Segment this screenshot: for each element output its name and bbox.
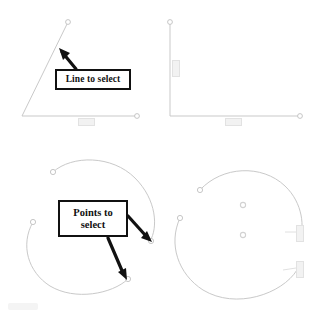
radius-leader-lower [283,268,296,270]
dimension-badge-top-right-vertical [172,60,180,77]
lower-arc-right [175,218,297,299]
figure-canvas: Line to select Points to select [0,0,323,320]
geometry-layer [0,0,323,320]
arc-endpoint-upper-left [50,169,55,174]
upper-arc-right [200,171,302,241]
dimension-badge-radius-lower [296,261,304,278]
callout-points-to-select-label: Points to select [73,207,112,231]
panel-top-right-geometry [168,20,303,119]
arrow-shaft-points-lower [108,238,123,273]
arrow-shaft-points-upper [128,216,146,236]
dimension-badge-top-left-horizontal [78,118,95,126]
center-point-marker-upper [240,202,245,207]
endpoint-marker-top [66,20,71,25]
callout-points-line-1: Points to [73,207,112,218]
scan-artifact [8,303,38,310]
endpoint-marker-right [135,114,140,119]
arc-endpoint-right-upper [197,187,202,192]
callout-points-to-select: Points to select [58,200,128,237]
callout-points-line-2: select [81,219,105,230]
dimension-badge-radius-upper [296,225,304,242]
callout-line-to-select-label: Line to select [66,74,121,85]
arc-endpoint-right-lower [177,215,182,220]
arrow-head-points-lower [118,268,127,280]
center-point-marker-lower [240,232,245,237]
endpoint-marker-horizontal-right [298,114,303,119]
callout-line-to-select: Line to select [55,69,131,90]
endpoint-marker-vertical-top [168,20,173,25]
dimension-badge-top-right-horizontal [225,118,242,126]
panel-bottom-right-geometry [175,171,302,299]
arc-endpoint-lower-left [30,219,35,224]
right-angle-polyline [170,22,300,116]
